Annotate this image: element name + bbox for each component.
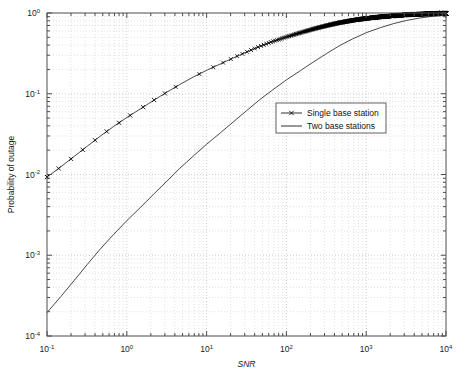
tick-label-layer: 10-110010110210310410010-110-210-310-4	[25, 8, 453, 354]
tick-label: 100	[120, 344, 133, 354]
tick-label: 101	[200, 344, 213, 354]
tick-label: 10-4	[25, 331, 40, 341]
legend-label-1: Single base station	[307, 108, 379, 118]
tick-label: 104	[440, 344, 453, 354]
x-axis-label: SNR	[238, 359, 256, 369]
chart-legend[interactable]: Single base stationTwo base stations	[276, 103, 386, 133]
grid-layer	[47, 13, 446, 336]
outage-probability-chart: 10-110010110210310410010-110-210-310-4 S…	[0, 0, 469, 377]
series-1	[45, 11, 448, 179]
legend-label-2: Two base stations	[307, 121, 375, 131]
tick-label: 10-1	[40, 344, 55, 354]
tick-label: 10-2	[25, 169, 40, 179]
tick-label: 10-3	[25, 250, 40, 260]
tick-label: 100	[27, 8, 40, 18]
axis-label-layer: SNRProbability of outage	[6, 135, 255, 369]
series-layer	[45, 11, 448, 312]
y-axis-label: Probability of outage	[6, 135, 16, 213]
tick-label: 103	[360, 344, 373, 354]
tick-label: 10-1	[25, 89, 40, 99]
series-line-1	[47, 13, 446, 177]
tick-label: 102	[280, 344, 293, 354]
series-markers-1	[45, 11, 448, 179]
figure-canvas: 10-110010110210310410010-110-210-310-4 S…	[0, 0, 469, 377]
